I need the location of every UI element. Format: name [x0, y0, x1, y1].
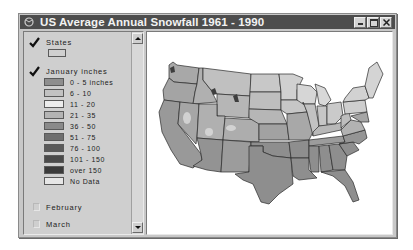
close-icon [383, 19, 390, 26]
legend-class: 11 - 20 [44, 99, 95, 109]
state-michigan [315, 84, 331, 106]
layer-february[interactable]: February [24, 200, 131, 214]
state-new-mexico [221, 140, 251, 172]
layer-name: January inches [46, 67, 108, 76]
unchecked-box[interactable] [33, 203, 40, 211]
color-swatch [44, 89, 64, 97]
state-wyoming [217, 94, 250, 118]
scroll-down-button[interactable] [132, 222, 143, 233]
scroll-up-button[interactable] [132, 33, 143, 44]
layer-name: March [46, 220, 71, 229]
us-snowfall-map[interactable] [147, 32, 393, 235]
window-controls [354, 17, 392, 28]
class-label: 6 - 10 [70, 90, 92, 97]
legend-class: 21 - 35 [44, 110, 96, 120]
state-mississippi [309, 146, 319, 172]
class-label: 0 - 5 inches [70, 79, 113, 86]
state-pennsylvania [343, 100, 367, 114]
color-swatch [44, 155, 64, 163]
legend-class: No Data [44, 176, 100, 186]
state-washington [169, 62, 199, 84]
color-swatch [44, 78, 64, 86]
state-arkansas [289, 140, 309, 158]
layer-march[interactable]: March [24, 218, 131, 232]
color-swatch [44, 100, 64, 108]
globe-icon [24, 17, 34, 27]
color-swatch [44, 111, 64, 119]
window-title: US Average Annual Snowfall 1961 - 1990 [40, 15, 264, 29]
legend-content: States January inches 0 - 5 inches 6 - 1… [24, 32, 131, 234]
legend-class: over 150 [44, 165, 102, 175]
map-view[interactable] [146, 31, 393, 235]
legend-class: 36 - 50 [44, 121, 96, 131]
unchecked-box[interactable] [33, 220, 40, 228]
class-label: 36 - 50 [70, 123, 96, 130]
state-kansas [259, 124, 289, 140]
class-label: 21 - 35 [70, 112, 96, 119]
legend-scrollbar[interactable] [131, 32, 143, 234]
maximize-button[interactable] [367, 17, 379, 28]
legend-class: 76 - 100 [44, 143, 101, 153]
state-north-dakota [250, 74, 281, 92]
title-bar[interactable]: US Average Annual Snowfall 1961 - 1990 [20, 15, 395, 29]
minimize-button[interactable] [354, 17, 366, 28]
class-label: over 150 [70, 167, 102, 174]
class-label: No Data [70, 178, 100, 185]
color-swatch [44, 122, 64, 130]
color-swatch [44, 166, 64, 174]
layer-states[interactable]: States [24, 32, 131, 62]
color-swatch [44, 177, 64, 185]
class-label: 76 - 100 [70, 145, 101, 152]
map-window: US Average Annual Snowfall 1961 - 1990 S… [18, 13, 397, 238]
color-swatch [44, 144, 64, 152]
checkmark-icon[interactable] [29, 66, 40, 77]
state-new-york [343, 86, 369, 102]
states-symbol-swatch [48, 49, 66, 57]
class-label: 101 - 150 [70, 156, 105, 163]
state-ohio [327, 102, 343, 124]
layer-name: States [46, 38, 72, 47]
state-florida [321, 170, 359, 202]
arrow-down-icon [135, 225, 141, 230]
legend-class: 101 - 150 [44, 154, 105, 164]
legend-class: 0 - 5 inches [44, 77, 113, 87]
legend-panel: States January inches 0 - 5 inches 6 - 1… [23, 31, 144, 235]
legend-class: 6 - 10 [44, 88, 92, 98]
checkmark-icon[interactable] [29, 37, 40, 48]
color-swatch [44, 133, 64, 141]
state-wisconsin [297, 84, 317, 104]
state-new-england [365, 62, 383, 98]
state-indiana [317, 106, 327, 126]
class-label: 11 - 20 [70, 101, 95, 108]
arrow-up-icon [135, 36, 141, 41]
state-nebraska [249, 109, 287, 124]
layer-name: February [46, 203, 82, 212]
class-label: 51 - 75 [70, 134, 96, 141]
close-button[interactable] [380, 17, 392, 28]
state-south-dakota [249, 92, 281, 110]
legend-class: 51 - 75 [44, 132, 96, 142]
